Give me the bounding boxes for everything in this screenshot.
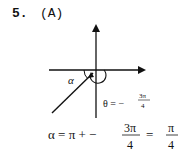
alpha-label: α [68, 74, 74, 86]
fraction2-denominator: 4 [168, 138, 174, 152]
theta-denominator: 4 [141, 102, 145, 110]
x-axis-arrow-icon [138, 66, 146, 74]
theta-numerator: 3π [139, 92, 147, 100]
fraction1-denominator: 4 [127, 138, 133, 152]
equals-sign: = [146, 127, 153, 142]
theta-equation: θ = − [103, 98, 124, 109]
y-axis-arrow-icon [92, 24, 100, 32]
angle-diagram: α θ = − 3π 4 α = π + − 3π 4 = π 4 [0, 0, 187, 155]
fraction2-numerator: π [168, 121, 174, 135]
theta-arc-arrow-icon [88, 72, 94, 78]
equation-lhs: α = π + − [48, 127, 96, 142]
fraction1-numerator: 3π [124, 121, 136, 135]
